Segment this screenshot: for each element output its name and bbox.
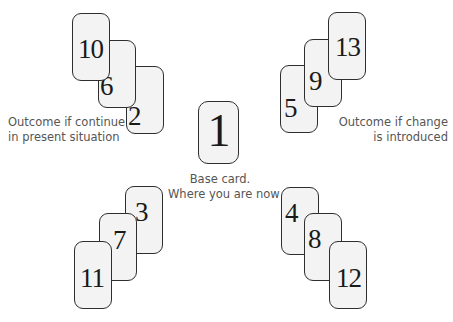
label-line: Outcome if continue bbox=[8, 115, 125, 130]
card-1-base: 1 bbox=[198, 101, 239, 164]
label-line: Outcome if change bbox=[339, 115, 448, 130]
card-number: 4 bbox=[285, 200, 298, 227]
label-line: Where you are now bbox=[168, 187, 272, 202]
label-line: is introduced bbox=[339, 130, 448, 145]
label-outcome-continue: Outcome if continue in present situation bbox=[8, 115, 125, 145]
card-number: 1 bbox=[208, 108, 230, 154]
card-number: 7 bbox=[113, 227, 126, 254]
card-number: 11 bbox=[80, 265, 104, 292]
card-number: 12 bbox=[336, 265, 361, 292]
label-outcome-change: Outcome if change is introduced bbox=[339, 115, 448, 145]
label-line: Base card. bbox=[168, 172, 272, 187]
card-10: 10 bbox=[72, 13, 110, 81]
card-number: 5 bbox=[284, 95, 297, 122]
card-12: 12 bbox=[329, 241, 367, 309]
card-13: 13 bbox=[328, 12, 366, 80]
card-number: 8 bbox=[308, 226, 321, 253]
card-number: 13 bbox=[335, 34, 360, 61]
label-line: in present situation bbox=[8, 130, 125, 145]
card-number: 10 bbox=[78, 36, 103, 63]
card-number: 9 bbox=[309, 68, 322, 95]
label-base-card: Base card. Where you are now bbox=[168, 172, 272, 202]
card-11: 11 bbox=[74, 241, 112, 309]
